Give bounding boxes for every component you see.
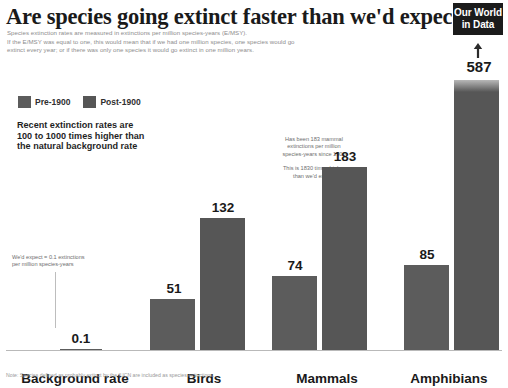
axis-baseline <box>6 350 502 351</box>
bar-value-birds-pre-1900: 51 <box>141 281 207 296</box>
bar-background-rate-pre-1900[interactable] <box>60 349 102 350</box>
chart-footnote: Note: Species defined as probably extinc… <box>6 372 214 378</box>
bar-value-birds-post-1900: 132 <box>190 200 256 215</box>
logo-line-2: in Data <box>453 19 503 31</box>
subtitle-line: Species extinction rates are measured in… <box>7 29 427 38</box>
chart-title: Are species going extinct faster than we… <box>6 4 446 30</box>
bar-group-amphibians: 85 <box>390 38 508 350</box>
bar-value-amphibians-pre-1900: 85 <box>394 247 460 262</box>
our-world-in-data-logo[interactable]: Our World in Data <box>452 2 504 36</box>
bar-value-mammals-pre-1900: 74 <box>262 258 328 273</box>
category-label-mammals: Mammals <box>264 371 390 386</box>
bar-group-mammals: 74 183 <box>264 38 390 350</box>
bar-birds-pre-1900[interactable] <box>150 299 195 350</box>
bar-mammals-post-1900[interactable] <box>322 167 367 350</box>
category-label-amphibians: Amphibians <box>390 371 508 386</box>
bar-mammals-pre-1900[interactable] <box>272 276 317 350</box>
logo-line-1: Our World <box>453 7 503 19</box>
bar-amphibians-post-1900[interactable] <box>454 80 499 350</box>
bar-amphibians-pre-1900[interactable] <box>404 265 449 350</box>
extinction-rate-chart: Are species going extinct faster than we… <box>0 0 508 388</box>
bar-group-background-rate: 0.1 <box>6 38 144 350</box>
bar-birds-post-1900[interactable] <box>200 218 245 350</box>
bar-value-mammals-post-1900: 183 <box>312 149 378 164</box>
bar-value-background-rate-pre-1900: 0.1 <box>48 331 114 346</box>
bar-group-birds: 51 132 <box>144 38 264 350</box>
